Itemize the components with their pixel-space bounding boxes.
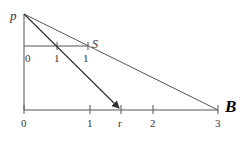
- lower-label-r: r: [118, 117, 122, 129]
- upper-label-1b: 1: [83, 52, 89, 64]
- upper-label-1a: 1: [54, 52, 60, 64]
- upper-label-0: 0: [25, 52, 31, 64]
- lower-label-0: 0: [21, 117, 27, 129]
- lower-label-1: 1: [87, 117, 93, 129]
- lower-label-2: 2: [150, 117, 156, 129]
- lower-label-3: 3: [215, 117, 221, 129]
- label-S: S: [92, 37, 98, 51]
- label-p: p: [9, 8, 17, 23]
- label-B: B: [224, 97, 236, 116]
- arrow-p-to-r: [24, 14, 119, 108]
- diagram-canvas: p S 0 1 1 0 1 r 2 3 B: [0, 0, 247, 141]
